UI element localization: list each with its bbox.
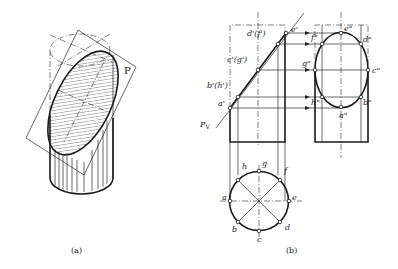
point-e-top	[287, 199, 291, 203]
point-c-side	[366, 68, 370, 72]
point-c-top	[257, 229, 261, 233]
point-a-top	[228, 199, 232, 203]
label-df-front: d'(f')	[247, 29, 266, 38]
label-g-top: g	[262, 159, 267, 168]
point-g-side	[313, 68, 317, 72]
point-g-top	[257, 169, 261, 173]
arrow-d	[305, 42, 310, 46]
label-e-top: e	[292, 193, 297, 202]
point-e-front	[284, 31, 288, 35]
label-a-side: a"	[339, 111, 347, 120]
arrow-a	[305, 106, 310, 110]
point-f-side	[320, 42, 324, 46]
plane-p-label: P	[124, 65, 131, 76]
label-b-top: b	[232, 225, 237, 234]
point-h-top	[236, 178, 240, 182]
label-h-side: h"	[311, 98, 320, 107]
figure-b-orthographic: e' d'(f') c'(g') b'(h') a' PV e" d" f"	[199, 12, 380, 255]
point-a-side	[339, 105, 343, 109]
label-c-side: c"	[372, 66, 380, 75]
label-d-top: d	[285, 223, 290, 232]
point-e-side	[339, 31, 343, 35]
label-b-side: b"	[363, 98, 372, 107]
point-cg-front	[256, 68, 260, 72]
figure-a-pictorial: P (a)	[26, 30, 136, 255]
label-f-top: f	[283, 166, 289, 175]
label-a-top: a	[222, 193, 227, 202]
label-h-top: h	[242, 162, 247, 171]
arrow-b	[305, 95, 310, 99]
side-view: e" d" f" g" c" h" b" a"	[302, 12, 380, 158]
arrow-c	[305, 68, 310, 72]
label-bh-front: b'(h')	[207, 81, 228, 90]
label-c-top: c	[257, 235, 262, 244]
label-d-side: d"	[363, 35, 372, 44]
section-ellipse	[33, 40, 132, 165]
point-h-side	[320, 95, 324, 99]
label-e-front: e'	[291, 25, 298, 34]
point-df-front	[276, 42, 280, 46]
label-g-side: g"	[302, 59, 311, 68]
label-f-side: f"	[310, 33, 318, 42]
top-view: a b c d e f g h	[220, 159, 302, 244]
label-pv: PV	[199, 120, 210, 130]
point-a-front	[228, 106, 232, 110]
label-e-side: e"	[344, 24, 352, 33]
point-d-top	[278, 220, 282, 224]
diagram-canvas: P (a)	[0, 0, 398, 269]
arrow-e	[305, 31, 310, 35]
point-f-top	[278, 178, 282, 182]
label-cg-front: c'(g')	[227, 55, 247, 64]
point-bh-front	[236, 95, 240, 99]
figure-b-caption: (b)	[286, 246, 297, 255]
point-b-top	[236, 220, 240, 224]
label-a-front: a'	[218, 99, 225, 108]
figure-a-caption: (a)	[71, 246, 82, 255]
